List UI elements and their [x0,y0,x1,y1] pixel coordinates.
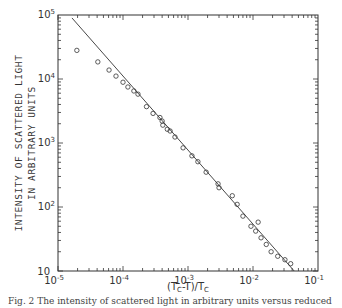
x-tick-label: 10-1 [304,274,324,286]
data-point [151,111,155,115]
data-point [269,250,273,254]
figure-caption: Fig. 2 The intensity of scattered light … [8,296,338,306]
y-tick-labels: 10102103104105 [37,8,55,277]
data-point [161,123,165,127]
y-tick-label: 103 [38,136,55,148]
data-point [253,229,257,233]
x-axis-label: (TC-T)/TC [167,281,209,294]
y-axis-label-line-2: IN ARBITRARY UNITS [26,86,37,200]
data-point [181,146,185,150]
data-point [132,89,136,93]
data-point [107,68,111,72]
log-log-scatter-chart: 10-510-410-310-210-1 10102103104105 (TC-… [0,0,342,300]
y-tick-label: 102 [38,200,55,212]
y-tick-label: 10 [37,266,50,277]
x-tick-label: 10-4 [109,274,129,286]
data-point [96,60,100,64]
y-tick-label: 105 [38,8,55,20]
y-axis-label-line-1: INTENSITY OF SCATTERED LIGHT [13,55,24,232]
data-point [283,258,287,262]
data-point [241,214,245,218]
x-tick-label: 10-2 [239,274,259,286]
axis-ticks [58,15,318,271]
y-tick-label: 104 [38,72,56,84]
data-point [121,80,125,84]
data-point [144,104,148,108]
data-points [75,48,293,266]
data-point [126,85,130,89]
data-point [114,74,118,78]
data-point [288,262,292,266]
data-point [230,194,234,198]
data-point [264,242,268,246]
fit-line [72,18,294,271]
data-point [75,48,79,52]
data-point [256,220,260,224]
plot-frame [58,15,318,271]
data-point [276,254,280,258]
y-axis-label: INTENSITY OF SCATTERED LIGHT IN ARBITRAR… [13,55,37,232]
data-point [259,236,263,240]
data-point [249,224,253,228]
